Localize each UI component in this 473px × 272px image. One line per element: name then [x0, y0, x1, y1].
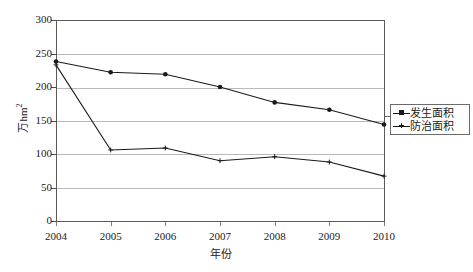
gridline	[57, 88, 384, 89]
x-tick-label: 2010	[359, 230, 409, 242]
legend-marker-cross-icon	[393, 120, 410, 132]
line-chart: 万hm2 050100150200250300 2004200520062007…	[0, 0, 473, 272]
y-tick-label: 150	[12, 115, 52, 126]
x-tick-label: 2009	[304, 230, 354, 242]
gridline	[57, 188, 384, 189]
x-tick-label: 2005	[86, 230, 136, 242]
plot-area	[56, 20, 385, 222]
x-tick-label: 2007	[195, 230, 245, 242]
y-tick-label: 250	[12, 48, 52, 59]
gridline	[57, 154, 384, 155]
x-tick-mark	[56, 222, 57, 226]
legend-item-occurrence-area[interactable]: 发生面积	[393, 106, 467, 119]
gridline	[57, 54, 384, 55]
x-tick-mark	[165, 222, 166, 226]
x-tick-mark	[384, 222, 385, 226]
x-tick-mark	[329, 222, 330, 226]
x-axis-title: 年份	[0, 248, 441, 261]
y-tick-label: 300	[12, 14, 52, 25]
x-tick-label: 2004	[31, 230, 81, 242]
gridline	[57, 121, 384, 122]
x-tick-mark	[220, 222, 221, 226]
y-tick-label: 100	[12, 148, 52, 159]
y-tick-label: 0	[12, 215, 52, 226]
legend: 发生面积 防治面积	[390, 104, 470, 135]
y-tick-label: 50	[12, 182, 52, 193]
legend-marker-filled-square-icon	[393, 107, 410, 119]
legend-label: 发生面积	[410, 107, 454, 119]
x-tick-mark	[111, 222, 112, 226]
x-tick-label: 2008	[250, 230, 300, 242]
x-tick-label: 2006	[140, 230, 190, 242]
legend-label: 防治面积	[410, 120, 454, 132]
legend-item-control-area[interactable]: 防治面积	[393, 119, 467, 132]
y-axis-title-superscript: 2	[15, 103, 24, 107]
x-tick-mark	[275, 222, 276, 226]
y-tick-label: 200	[12, 81, 52, 92]
